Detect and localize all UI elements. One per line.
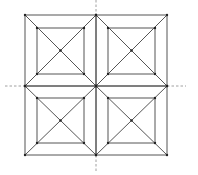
vertex-dot xyxy=(36,97,38,99)
vertex-dot xyxy=(59,119,61,121)
vertex-dot xyxy=(107,73,109,75)
vertex-dot xyxy=(130,49,132,51)
vertex-dot xyxy=(83,27,85,29)
vertex-dot xyxy=(24,85,26,87)
vertex-dot xyxy=(36,142,38,144)
vertex-dot xyxy=(166,85,168,87)
vertex-dot xyxy=(36,73,38,75)
geometric-pattern-diagram xyxy=(0,0,198,175)
vertex-dot xyxy=(166,154,168,156)
vertex-dot xyxy=(154,97,156,99)
vertex-dot xyxy=(95,154,97,156)
vertex-dot xyxy=(154,142,156,144)
vertex-dot xyxy=(107,97,109,99)
vertex-dot xyxy=(83,97,85,99)
vertex-dot xyxy=(154,27,156,29)
vertex-dot xyxy=(83,73,85,75)
vertex-dot xyxy=(154,73,156,75)
vertex-dot xyxy=(24,154,26,156)
vertex-dot xyxy=(24,14,26,16)
vertex-dot xyxy=(107,27,109,29)
vertex-dot xyxy=(95,85,97,87)
vertex-dot xyxy=(83,142,85,144)
vertex-dot xyxy=(95,14,97,16)
vertex-dot xyxy=(36,27,38,29)
vertex-dot xyxy=(59,49,61,51)
vertex-dot xyxy=(107,142,109,144)
vertex-dot xyxy=(130,119,132,121)
vertex-dot xyxy=(166,14,168,16)
